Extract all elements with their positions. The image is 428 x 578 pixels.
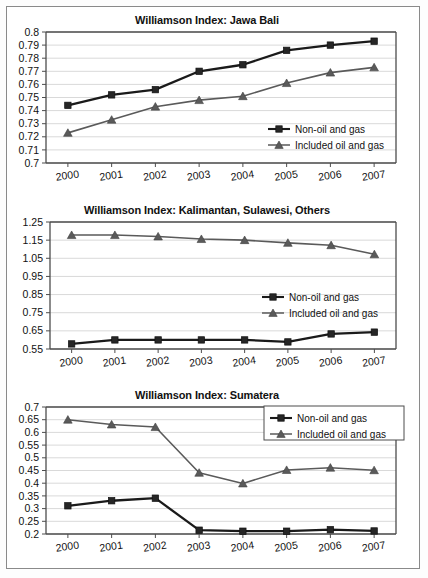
square-marker bbox=[65, 102, 71, 108]
square-marker bbox=[198, 337, 204, 343]
legend-label: Included oil and gas bbox=[295, 140, 384, 151]
y-tick-label: 0.5 bbox=[24, 451, 39, 463]
figure-page: Williamson Index: Jawa Bali 0.70.710.720… bbox=[0, 0, 428, 578]
y-tick-label: 0.3 bbox=[24, 502, 39, 514]
square-marker bbox=[152, 86, 158, 92]
legend-label: Included oil and gas bbox=[289, 308, 378, 319]
legend-label: Included oil and gas bbox=[297, 429, 386, 440]
plot-area-jawa-bali: 0.70.710.720.730.740.750.760.770.780.790… bbox=[0, 26, 414, 194]
square-marker bbox=[283, 47, 289, 53]
y-tick-label: 0.7 bbox=[24, 157, 39, 169]
y-tick-label: 0.55 bbox=[19, 439, 40, 451]
square-marker bbox=[371, 528, 377, 534]
x-tick-label: 2001 bbox=[99, 538, 124, 553]
square-marker bbox=[270, 294, 276, 300]
y-tick-label: 0.45 bbox=[19, 464, 40, 476]
chart-svg-kalimantan: 0.550.650.750.850.951.051.151.2520002001… bbox=[0, 216, 414, 384]
x-tick-label: 2000 bbox=[55, 167, 80, 182]
square-marker bbox=[240, 528, 246, 534]
plot-area-kalimantan: 0.550.650.750.850.951.051.151.2520002001… bbox=[0, 216, 414, 384]
x-tick-label: 2000 bbox=[59, 353, 84, 368]
square-marker bbox=[108, 92, 114, 98]
y-tick-label: 0.95 bbox=[23, 270, 44, 282]
square-marker bbox=[240, 62, 246, 68]
y-tick-label: 1.05 bbox=[23, 252, 44, 264]
square-marker bbox=[68, 341, 74, 347]
square-marker bbox=[276, 126, 282, 132]
x-tick-label: 2001 bbox=[99, 167, 124, 182]
x-tick-label: 2004 bbox=[230, 538, 255, 553]
y-tick-label: 0.8 bbox=[24, 26, 39, 38]
x-tick-label: 2006 bbox=[317, 167, 342, 182]
y-tick-label: 0.7 bbox=[24, 401, 39, 413]
square-marker bbox=[278, 415, 284, 421]
legend-label: Non-oil and gas bbox=[297, 413, 367, 424]
x-tick-label: 2006 bbox=[317, 538, 342, 553]
y-tick-label: 0.75 bbox=[19, 91, 40, 103]
y-tick-label: 1.15 bbox=[23, 234, 44, 246]
x-tick-label: 2000 bbox=[55, 538, 80, 553]
square-marker bbox=[65, 503, 71, 509]
y-tick-label: 0.72 bbox=[19, 130, 40, 142]
y-tick-label: 0.74 bbox=[19, 104, 40, 116]
x-tick-label: 2003 bbox=[186, 167, 211, 182]
square-marker bbox=[112, 337, 118, 343]
y-tick-label: 0.55 bbox=[23, 343, 44, 355]
square-marker bbox=[241, 337, 247, 343]
y-tick-label: 0.75 bbox=[23, 306, 44, 318]
legend-label: Non-oil and gas bbox=[289, 292, 359, 303]
x-tick-label: 2004 bbox=[230, 167, 255, 182]
y-tick-label: 0.6 bbox=[24, 426, 39, 438]
chart-panel-jawa-bali: Williamson Index: Jawa Bali 0.70.710.720… bbox=[0, 14, 414, 194]
x-tick-label: 2004 bbox=[232, 353, 257, 368]
y-tick-label: 0.25 bbox=[19, 515, 40, 527]
square-marker bbox=[108, 498, 114, 504]
x-tick-label: 2006 bbox=[318, 353, 343, 368]
square-marker bbox=[327, 42, 333, 48]
x-tick-label: 2005 bbox=[274, 167, 299, 182]
x-tick-label: 2007 bbox=[361, 167, 386, 182]
y-tick-label: 0.79 bbox=[19, 39, 40, 51]
y-tick-label: 0.77 bbox=[19, 65, 40, 77]
x-tick-label: 2007 bbox=[361, 353, 386, 368]
x-tick-label: 2003 bbox=[186, 538, 211, 553]
chart-title-kalimantan: Williamson Index: Kalimantan, Sulawesi, … bbox=[0, 204, 414, 216]
square-marker bbox=[196, 68, 202, 74]
y-tick-label: 0.2 bbox=[24, 528, 39, 540]
y-tick-label: 0.73 bbox=[19, 117, 40, 129]
chart-svg-jawa-bali: 0.70.710.720.730.740.750.760.770.780.790… bbox=[0, 26, 414, 194]
x-tick-label: 2007 bbox=[361, 538, 386, 553]
chart-legend: Non-oil and gasIncluded oil and gas bbox=[264, 406, 404, 440]
x-tick-label: 2002 bbox=[142, 538, 167, 553]
legend-label: Non-oil and gas bbox=[295, 124, 365, 135]
square-marker bbox=[152, 495, 158, 501]
y-tick-label: 0.65 bbox=[19, 413, 40, 425]
y-tick-label: 0.35 bbox=[19, 490, 40, 502]
x-tick-label: 2005 bbox=[275, 353, 300, 368]
y-tick-label: 0.71 bbox=[19, 144, 40, 156]
y-tick-label: 1.25 bbox=[23, 216, 44, 228]
square-marker bbox=[285, 339, 291, 345]
square-marker bbox=[371, 38, 377, 44]
chart-panel-kalimantan: Williamson Index: Kalimantan, Sulawesi, … bbox=[0, 204, 414, 384]
square-marker bbox=[196, 527, 202, 533]
square-marker bbox=[327, 526, 333, 532]
x-tick-label: 2003 bbox=[188, 353, 213, 368]
chart-panel-sumatera: Williamson Index: Sumatera 0.20.250.30.3… bbox=[0, 389, 414, 569]
plot-area-sumatera: 0.20.250.30.350.40.450.50.550.60.650.720… bbox=[0, 401, 414, 569]
square-marker bbox=[283, 528, 289, 534]
chart-svg-sumatera: 0.20.250.30.350.40.450.50.550.60.650.720… bbox=[0, 401, 414, 569]
x-tick-label: 2002 bbox=[142, 167, 167, 182]
chart-title-sumatera: Williamson Index: Sumatera bbox=[0, 389, 414, 401]
square-marker bbox=[371, 329, 377, 335]
chart-title-jawa-bali: Williamson Index: Jawa Bali bbox=[0, 14, 414, 26]
y-tick-label: 0.65 bbox=[23, 324, 44, 336]
x-tick-label: 2002 bbox=[145, 353, 170, 368]
y-tick-label: 0.4 bbox=[24, 477, 39, 489]
x-tick-label: 2001 bbox=[102, 353, 127, 368]
square-marker bbox=[155, 337, 161, 343]
y-tick-label: 0.76 bbox=[19, 78, 40, 90]
square-marker bbox=[328, 331, 334, 337]
x-tick-label: 2005 bbox=[274, 538, 299, 553]
y-tick-label: 0.78 bbox=[19, 52, 40, 64]
